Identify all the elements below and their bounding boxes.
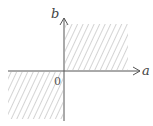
shaded-region-first-quadrant: [65, 24, 128, 70]
b-axis-label: b: [51, 6, 59, 21]
a-axis-label: a: [142, 63, 150, 78]
origin-label: 0: [54, 75, 61, 88]
coordinate-diagram: b a 0: [0, 0, 153, 126]
